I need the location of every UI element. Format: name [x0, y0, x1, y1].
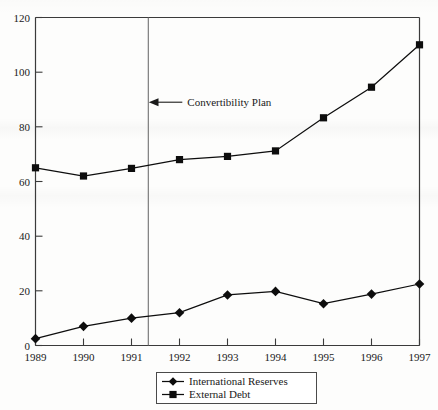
x-tick-label-1996: 1996	[361, 351, 384, 363]
y-tick-label-60: 60	[19, 176, 31, 188]
external-debt-point-1993	[224, 153, 231, 160]
y-axis-ticks	[36, 18, 43, 346]
x-tick-label-1989: 1989	[25, 351, 48, 363]
series-international-reserves	[31, 279, 425, 343]
x-axis-ticks	[36, 339, 420, 346]
external-debt-point-1990	[80, 172, 87, 179]
x-tick-label-1990: 1990	[73, 351, 96, 363]
international-reserves-point-1996	[367, 289, 377, 299]
y-tick-label-20: 20	[19, 285, 31, 297]
convertibility-plan-label: Convertibility Plan	[187, 96, 272, 108]
international-reserves-point-1994	[271, 287, 281, 297]
x-tick-label-1997: 1997	[409, 351, 432, 363]
chart-legend: International Reserves External Debt	[157, 373, 317, 404]
external-debt-point-1992	[176, 156, 183, 163]
international-reserves-point-1990	[79, 322, 89, 332]
x-tick-label-1991: 1991	[121, 351, 143, 363]
external-debt-point-1991	[128, 165, 135, 172]
y-axis-tick-labels: 0 20 40 60 80 100 120	[14, 12, 31, 352]
x-tick-label-1995: 1995	[313, 351, 336, 363]
chart-figure: 0 20 40 60 80 100 120 1989 1990 1991 199…	[0, 0, 438, 410]
international-reserves-point-1991	[127, 313, 137, 323]
international-reserves-point-1995	[319, 299, 329, 309]
international-reserves-point-1997	[415, 279, 425, 289]
international-reserves-point-1993	[223, 290, 233, 300]
x-tick-label-1992: 1992	[169, 351, 191, 363]
international-reserves-point-1992	[175, 308, 185, 318]
y-tick-label-40: 40	[19, 230, 31, 242]
external-debt-point-1995	[320, 114, 327, 121]
y-tick-label-100: 100	[14, 66, 31, 78]
x-axis-tick-labels: 1989 1990 1991 1992 1993 1994 1995 1996 …	[25, 351, 432, 363]
external-debt-point-1997	[416, 41, 423, 48]
line-chart-plot: 0 20 40 60 80 100 120 1989 1990 1991 199…	[0, 0, 438, 410]
external-debt-point-1996	[368, 84, 375, 91]
convertibility-plan-annotation: Convertibility Plan	[149, 96, 272, 108]
legend-label-external-debt: External Debt	[189, 388, 250, 400]
international-reserves-point-1989	[31, 334, 41, 344]
square-marker-icon	[169, 391, 176, 398]
y-tick-label-80: 80	[19, 121, 31, 133]
x-tick-label-1994: 1994	[265, 351, 288, 363]
annotation-arrow-head-icon	[149, 98, 159, 106]
legend-label-international-reserves: International Reserves	[189, 375, 288, 387]
y-tick-label-0: 0	[25, 340, 31, 352]
y-tick-label-120: 120	[14, 12, 31, 24]
x-tick-label-1993: 1993	[217, 351, 240, 363]
external-debt-point-1989	[32, 164, 39, 171]
series-external-debt	[32, 41, 423, 179]
external-debt-point-1994	[272, 147, 279, 154]
